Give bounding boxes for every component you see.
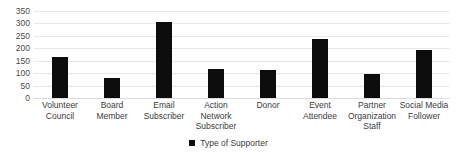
bar-slot xyxy=(242,11,294,98)
y-axis: 350300250200150100500 xyxy=(0,11,30,98)
x-axis-category-label: Donor xyxy=(242,100,294,111)
bar-slot xyxy=(86,11,138,98)
x-axis: Volunteer CouncilBoard MemberEmail Subsc… xyxy=(34,100,450,132)
y-axis-tick-label: 200 xyxy=(16,44,30,53)
bar-slot xyxy=(190,11,242,98)
bar-slot xyxy=(294,11,346,98)
bar xyxy=(364,74,381,98)
bar xyxy=(104,78,121,98)
bar xyxy=(416,50,433,98)
bars-layer xyxy=(34,11,450,98)
y-axis-tick-label: 50 xyxy=(21,81,30,90)
y-axis-tick-label: 0 xyxy=(25,94,30,103)
bar-slot xyxy=(34,11,86,98)
x-axis-category-label: Action Network Subscriber xyxy=(190,100,242,132)
legend-label: Type of Supporter xyxy=(200,139,268,148)
x-axis-category-label: Event Attendee xyxy=(294,100,346,121)
bar-slot xyxy=(398,11,450,98)
x-axis-category-label: Email Subscriber xyxy=(138,100,190,121)
bar xyxy=(52,57,69,98)
bar xyxy=(312,39,329,98)
x-axis-category-label: Board Member xyxy=(86,100,138,121)
x-axis-category-label: Partner Organization Staff xyxy=(346,100,398,132)
y-axis-tick-label: 150 xyxy=(16,56,30,65)
bar-slot xyxy=(346,11,398,98)
bar-chart: 350300250200150100500 Volunteer CouncilB… xyxy=(0,0,457,158)
gridline xyxy=(34,98,450,99)
y-axis-tick-label: 250 xyxy=(16,32,30,41)
bar xyxy=(260,70,277,98)
bar xyxy=(208,69,225,98)
y-axis-tick-label: 300 xyxy=(16,19,30,28)
bar-slot xyxy=(138,11,190,98)
bar xyxy=(156,22,173,98)
chart-legend: Type of Supporter xyxy=(0,139,457,148)
y-axis-tick-label: 350 xyxy=(16,7,30,16)
x-axis-category-label: Social Media Follower xyxy=(398,100,450,121)
x-axis-category-label: Volunteer Council xyxy=(34,100,86,121)
legend-swatch-icon xyxy=(189,140,195,146)
y-axis-tick-label: 100 xyxy=(16,69,30,78)
